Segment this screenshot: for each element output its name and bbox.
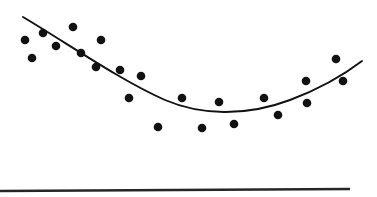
data-point bbox=[260, 94, 269, 103]
data-point bbox=[92, 63, 101, 72]
data-point bbox=[125, 94, 134, 103]
data-point bbox=[21, 36, 30, 45]
plot-background bbox=[0, 0, 377, 197]
data-point bbox=[77, 49, 86, 58]
data-point bbox=[302, 77, 311, 86]
data-point bbox=[230, 120, 239, 129]
data-point bbox=[116, 66, 125, 75]
plot-canvas bbox=[0, 0, 377, 197]
data-point bbox=[303, 99, 312, 108]
data-point bbox=[274, 111, 283, 120]
data-point bbox=[39, 29, 48, 38]
data-point bbox=[198, 124, 207, 133]
data-point bbox=[52, 42, 61, 51]
data-point bbox=[28, 54, 37, 63]
data-point bbox=[154, 123, 163, 132]
data-point bbox=[69, 23, 78, 32]
data-point bbox=[215, 98, 224, 107]
data-point bbox=[137, 72, 146, 81]
data-point bbox=[178, 94, 187, 103]
scatter-plot-figure bbox=[0, 0, 377, 197]
data-point bbox=[332, 55, 341, 64]
data-point bbox=[339, 77, 348, 86]
data-point bbox=[97, 36, 106, 45]
